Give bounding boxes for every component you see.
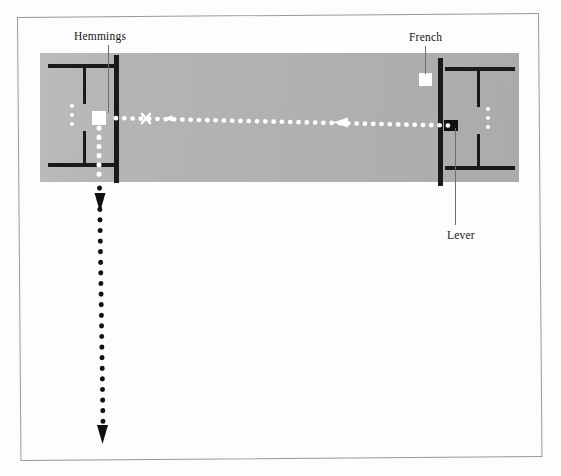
path-overlay: [0, 0, 561, 476]
player-run-path-off-pitch: [95, 188, 109, 444]
ball-pass-path: [112, 115, 448, 127]
figure-canvas: Hemmings French Lever: [0, 0, 561, 476]
